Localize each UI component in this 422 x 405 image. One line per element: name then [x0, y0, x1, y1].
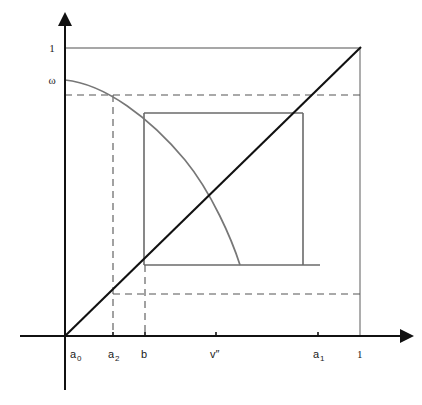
map-curve	[65, 80, 240, 265]
dashed-construction-group	[65, 95, 360, 336]
y-tick-label-one: 1	[49, 42, 55, 54]
horizontal-axis-arrowhead	[400, 329, 414, 343]
x-tick-label-vpp: v″	[210, 348, 220, 360]
identity-diagonal	[65, 47, 361, 336]
x-tick-label-b: b	[141, 348, 147, 360]
x-tick-label-a1: a	[313, 348, 320, 360]
x-tick-label-a0: a	[70, 348, 77, 360]
diagram-canvas: a 0 a 2 b v″ a 1 1 1 ω	[0, 0, 422, 405]
axes-group	[20, 12, 414, 390]
figure-root: a 0 a 2 b v″ a 1 1 1 ω	[0, 0, 422, 405]
y-axis-tick-labels: 1 ω	[48, 42, 55, 86]
x-axis-tick-labels: a 0 a 2 b v″ a 1 1	[70, 348, 363, 363]
x-tick-label-a2-subscript: 2	[115, 354, 120, 363]
x-tick-label-a0-subscript: 0	[77, 354, 82, 363]
figure-caption	[0, 391, 422, 405]
vertical-axis-arrowhead	[58, 12, 72, 26]
x-tick-label-a2: a	[108, 348, 115, 360]
x-tick-label-one: 1	[357, 348, 363, 360]
x-tick-label-a1-subscript: 1	[320, 354, 325, 363]
y-tick-label-omega: ω	[48, 74, 55, 86]
